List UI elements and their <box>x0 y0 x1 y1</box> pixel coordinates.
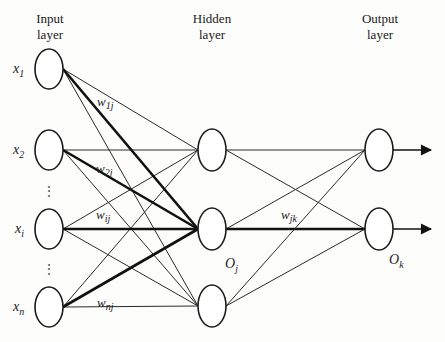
ellipsis-2: ⋮ <box>42 262 56 277</box>
input-layer-title: Input layer <box>36 11 64 42</box>
diagram-canvas: Input layer Hidden layer Output layer <box>0 0 445 342</box>
output-label-ok: Ok <box>389 252 404 270</box>
weight-label-w2j: w2j <box>96 161 113 178</box>
svg-text:Input: Input <box>36 11 64 26</box>
hidden-output-edges <box>226 150 365 306</box>
output-layer-title: Output layer <box>362 11 399 42</box>
input-label-xn: xn <box>12 299 24 317</box>
output-arrows <box>393 150 431 229</box>
svg-text:Output: Output <box>362 11 399 26</box>
input-node-1 <box>35 49 63 89</box>
hidden-node-1 <box>198 129 226 171</box>
hidden-layer-title: Hidden layer <box>193 11 232 42</box>
weight-label-wij: wij <box>96 207 110 224</box>
input-label-xi: xi <box>14 221 24 239</box>
hidden-nodes <box>198 129 226 327</box>
svg-text:layer: layer <box>367 27 394 42</box>
weight-label-wjk: wjk <box>281 207 297 224</box>
neural-network-diagram: Input layer Hidden layer Output layer <box>0 0 445 342</box>
input-label-x1: x1 <box>12 61 24 79</box>
svg-text:Hidden: Hidden <box>193 11 232 26</box>
input-node-i <box>35 209 63 249</box>
input-labels: x1 x2 xi xn <box>12 61 24 317</box>
output-node-1 <box>365 129 393 171</box>
output-nodes <box>365 129 393 250</box>
weight-label-w1j: w1j <box>97 94 114 111</box>
weight-labels: w1j w2j wij wnj wjk <box>96 94 297 312</box>
hidden-output-label-oj: Oj <box>225 256 238 274</box>
svg-text:layer: layer <box>199 27 226 42</box>
input-label-x2: x2 <box>12 142 24 160</box>
hidden-node-3 <box>198 285 226 327</box>
svg-text:layer: layer <box>37 27 64 42</box>
input-node-2 <box>35 130 63 170</box>
output-node-k <box>365 208 393 250</box>
hidden-node-j <box>198 208 226 250</box>
ellipsis-1: ⋮ <box>42 184 56 199</box>
input-node-n <box>35 287 63 327</box>
weight-label-wnj: wnj <box>97 295 114 312</box>
